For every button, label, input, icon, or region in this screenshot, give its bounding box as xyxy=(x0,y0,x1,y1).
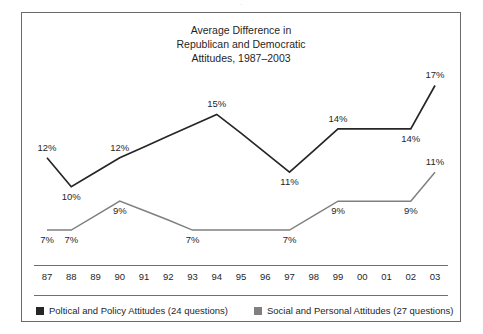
x-tick-87: 87 xyxy=(42,271,53,283)
x-tick-98: 98 xyxy=(308,271,319,283)
x-tick-89: 89 xyxy=(90,271,101,283)
data-label-social-97: 7% xyxy=(283,234,297,245)
x-tick-03: 03 xyxy=(430,271,441,283)
x-tick-94: 94 xyxy=(211,271,222,283)
x-tick-91: 91 xyxy=(139,271,150,283)
x-tick-97: 97 xyxy=(284,271,295,283)
plot-area: 12%10%12%15%11%14%14%17%7%7%9%7%7%9%9%11… xyxy=(22,13,460,265)
data-label-political-03: 17% xyxy=(425,69,444,80)
x-tick-96: 96 xyxy=(260,271,271,283)
axis-rule-top xyxy=(34,265,448,266)
chart-frame: Average Difference in Republican and Dem… xyxy=(21,12,461,322)
data-label-political-88: 10% xyxy=(62,191,81,202)
data-label-political-90: 12% xyxy=(110,142,129,153)
x-tick-99: 99 xyxy=(333,271,344,283)
data-label-political-99: 14% xyxy=(328,113,347,124)
data-label-political-87: 12% xyxy=(37,142,56,153)
data-label-political-94: 15% xyxy=(207,98,226,109)
x-tick-01: 01 xyxy=(381,271,392,283)
x-tick-93: 93 xyxy=(187,271,198,283)
x-tick-88: 88 xyxy=(66,271,77,283)
x-tick-00: 00 xyxy=(357,271,368,283)
chart-legend: Poltical and Policy Attitudes (24 questi… xyxy=(22,303,460,323)
data-label-social-90: 9% xyxy=(113,205,127,216)
axis-rule-bottom xyxy=(34,295,448,296)
legend-swatch-social-icon xyxy=(254,307,262,315)
series-lines xyxy=(22,13,460,265)
data-label-political-02: 14% xyxy=(401,133,420,144)
chart-figure: · Average Difference in Republican and D… xyxy=(0,0,483,334)
legend-label-political: Poltical and Policy Attitudes (24 questi… xyxy=(49,305,228,317)
x-tick-95: 95 xyxy=(236,271,247,283)
data-label-social-93: 7% xyxy=(186,234,200,245)
data-label-social-88: 7% xyxy=(64,234,78,245)
cropped-caption-remnant: · xyxy=(0,0,483,9)
line-political xyxy=(47,85,435,186)
legend-item-social[interactable]: Social and Personal Attitudes (27 questi… xyxy=(254,305,453,317)
data-label-social-87: 7% xyxy=(40,234,54,245)
x-tick-02: 02 xyxy=(405,271,416,283)
x-tick-92: 92 xyxy=(163,271,174,283)
legend-label-social: Social and Personal Attitudes (27 questi… xyxy=(267,305,453,317)
data-label-social-99: 9% xyxy=(331,205,345,216)
legend-swatch-political-icon xyxy=(36,307,44,315)
line-social xyxy=(47,172,435,230)
data-label-social-02: 9% xyxy=(404,205,418,216)
x-axis-tick-labels: 8788899091929394959697989900010203 xyxy=(22,271,460,291)
data-label-social-03: 11% xyxy=(426,156,444,167)
data-label-political-97: 11% xyxy=(280,176,298,187)
legend-item-political[interactable]: Poltical and Policy Attitudes (24 questi… xyxy=(36,305,228,317)
x-tick-90: 90 xyxy=(114,271,125,283)
